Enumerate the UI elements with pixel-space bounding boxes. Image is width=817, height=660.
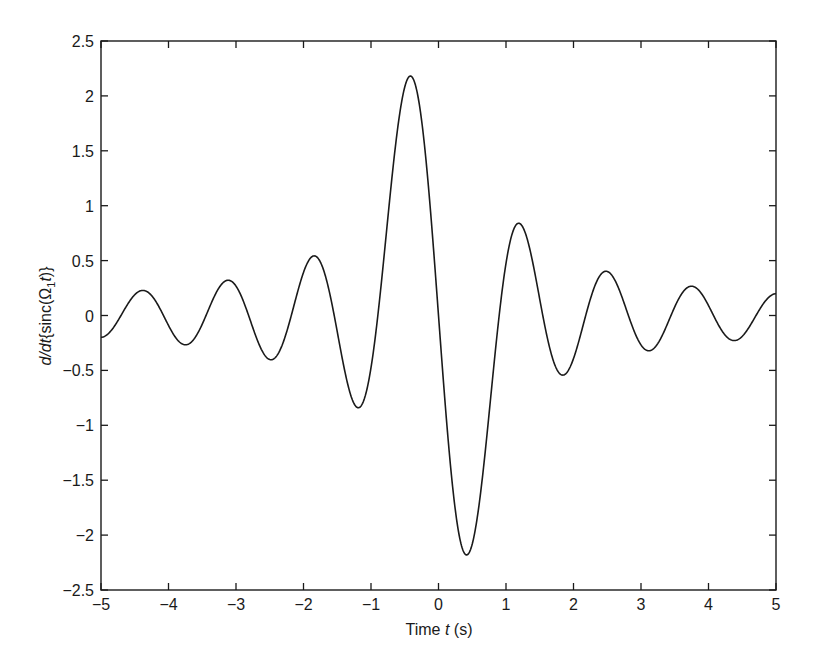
- x-tick-label: 2: [569, 596, 578, 613]
- y-tick-label: −2.5: [62, 582, 94, 599]
- x-tick-label: −2: [294, 596, 312, 613]
- data-series-line: [101, 76, 776, 555]
- y-tick-label: −1: [76, 417, 94, 434]
- chart-figure: −5−4−3−2−1012345 −2.5−2−1.5−1−0.500.511.…: [0, 0, 817, 660]
- y-tick-label: −1.5: [62, 472, 94, 489]
- x-tick-label: 3: [637, 596, 646, 613]
- y-tick-labels: −2.5−2−1.5−1−0.500.511.522.5: [62, 33, 94, 599]
- y-tick-label: −2: [76, 527, 94, 544]
- x-tick-label: 4: [704, 596, 713, 613]
- x-tick-label: 5: [772, 596, 781, 613]
- y-tick-label: 1: [85, 198, 94, 215]
- y-axis-label: d/dt{sinc(Ω1t)}: [37, 266, 57, 366]
- y-tick-label: 2.5: [72, 33, 94, 50]
- x-tick-label: 0: [434, 596, 443, 613]
- x-tick-label: −5: [92, 596, 110, 613]
- x-tick-label: −1: [362, 596, 380, 613]
- y-tick-label: 0.5: [72, 253, 94, 270]
- y-tick-label: 2: [85, 88, 94, 105]
- x-tick-labels: −5−4−3−2−1012345: [92, 596, 781, 613]
- y-tick-label: 0: [85, 308, 94, 325]
- y-tick-label: −0.5: [62, 362, 94, 379]
- y-tick-label: 1.5: [72, 143, 94, 160]
- x-tick-label: −3: [227, 596, 245, 613]
- x-tick-label: 1: [502, 596, 511, 613]
- line-chart: −5−4−3−2−1012345 −2.5−2−1.5−1−0.500.511.…: [0, 0, 817, 660]
- x-axis-label: Time t (s): [406, 621, 473, 638]
- x-tick-label: −4: [159, 596, 177, 613]
